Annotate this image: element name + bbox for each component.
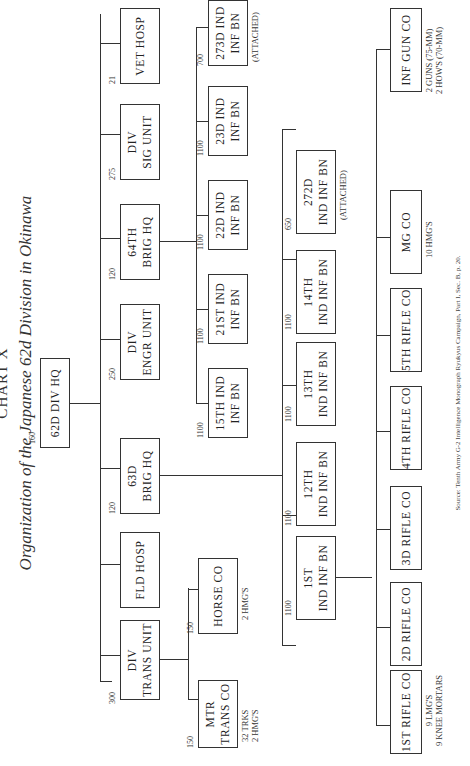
connector — [196, 28, 197, 404]
chart-number: CHART X — [0, 0, 11, 766]
org-chart: CHART X Organization of the Japanese 62d… — [0, 0, 470, 766]
1st-rifle-co-note: 9 LMG'S 9 KNEE MORTARS — [424, 675, 444, 746]
org-box-fld-hosp: FLD HOSP — [120, 532, 160, 608]
connector — [70, 403, 100, 404]
connector — [100, 238, 120, 239]
connector — [376, 627, 390, 628]
connector — [188, 699, 198, 700]
inf-gun-co-note: 2 GUNS (75-MM) 2 HOW'S (70-MM) — [424, 27, 444, 94]
org-box-1st-ind-inf-bn: 1ST IND INF BN — [296, 536, 336, 620]
org-box-272d-ind-inf-bn: 272D IND INF BN — [296, 150, 336, 234]
org-box-22d-ind-inf-bn: 22D IND INF BN — [208, 180, 248, 250]
connector — [100, 43, 120, 44]
org-box-23d-ind-inf-bn: 23D IND INF BN — [208, 86, 248, 156]
org-box-21st-ind-inf-bn: 21ST IND INF BN — [208, 274, 248, 344]
hq-strength: 160 — [28, 432, 37, 444]
mg-co-note: 10 HMG'S — [424, 221, 434, 258]
org-box-1st-rifle-co: 1ST RIFLE CO — [390, 670, 422, 754]
connector — [188, 589, 198, 590]
org-box-15th-ind-inf-bn: 15TH IND INF BN — [208, 368, 248, 438]
connector — [100, 564, 120, 565]
org-box-vet-hosp: VET HOSP — [120, 8, 160, 84]
connector — [282, 129, 296, 130]
org-box-2d-rifle-co: 2D RIFLE CO — [390, 582, 422, 666]
connector — [100, 134, 120, 135]
connector — [160, 475, 282, 476]
mtr-trans-note: 32 TRKS 2 HMG'S — [240, 710, 260, 742]
org-box-13th-ind-inf-bn: 13TH IND INF BN — [296, 342, 336, 426]
connector — [100, 681, 112, 682]
connector — [282, 385, 296, 386]
org-box-62d-div-hq: 62D DIV HQ — [40, 358, 70, 448]
org-box-3d-rifle-co: 3D RIFLE CO — [390, 486, 422, 570]
org-box-inf-gun-co: INF GUN CO — [390, 8, 422, 92]
connector — [376, 431, 390, 432]
connector — [376, 725, 390, 726]
connector — [196, 121, 208, 122]
connector — [100, 655, 120, 656]
org-box-mtr-trans-co: MTR TRANS CO — [198, 680, 238, 748]
org-box-5th-rifle-co: 5TH RIFLE CO — [390, 288, 422, 372]
connector — [376, 529, 390, 530]
connector — [282, 645, 296, 646]
connector — [196, 27, 208, 28]
connector — [188, 588, 189, 700]
org-box-horse-co: HORSE CO — [198, 558, 238, 634]
horse-co-note: 2 HMG'S — [240, 588, 250, 620]
connector — [196, 403, 208, 404]
connector — [196, 309, 208, 310]
connector — [160, 659, 188, 660]
connector — [376, 49, 390, 50]
org-box-14th-ind-inf-bn: 14TH IND INF BN — [296, 250, 336, 334]
connector — [282, 259, 296, 260]
connector — [376, 237, 390, 238]
org-box-12th-ind-inf-bn: 12TH IND INF BN — [296, 442, 336, 526]
connector — [196, 215, 208, 216]
source-citation: Source: Tenth Army G-2 Intelligence Mono… — [454, 0, 462, 766]
273d-attached-note: (ATTACHED) — [250, 12, 260, 62]
org-box-4th-rifle-co: 4TH RIFLE CO — [390, 386, 422, 470]
272d-attached-note: (ATTACHED) — [338, 170, 348, 220]
connector — [336, 577, 372, 578]
org-box-mg-co: MG CO — [390, 190, 422, 274]
connector — [376, 335, 390, 336]
org-box-div-sig-unit: DIV SIG UNIT — [120, 104, 160, 180]
connector — [376, 50, 377, 726]
org-box-64th-brig-hq: 64TH BRIG HQ — [120, 204, 160, 280]
connector — [282, 130, 283, 646]
connector — [100, 468, 120, 469]
connector — [100, 14, 101, 682]
org-box-div-engr-unit: DIV ENGR UNIT — [120, 304, 160, 380]
org-box-273d-ind-inf-bn: 273D IND INF BN — [208, 0, 248, 66]
chart-title: Organization of the Japanese 62d Divisio… — [16, 0, 36, 766]
connector — [160, 241, 196, 242]
connector — [100, 339, 120, 340]
org-box-63d-brig-hq: 63D BRIG HQ — [120, 438, 160, 514]
org-box-div-trans-unit: DIV TRANS UNIT — [120, 620, 160, 700]
